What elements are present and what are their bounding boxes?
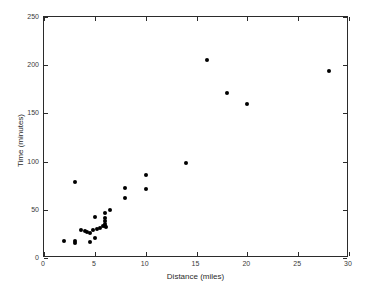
x-tick-label: 25 (293, 260, 301, 267)
x-axis-tick-top (247, 17, 248, 21)
x-axis-tick (298, 252, 299, 256)
data-point (103, 211, 107, 215)
data-point (327, 69, 331, 73)
y-axis-tick (44, 17, 48, 18)
data-point (205, 58, 209, 62)
data-point (225, 91, 229, 95)
y-tick-label: 50 (31, 205, 39, 212)
y-axis-tick (44, 210, 48, 211)
data-point (144, 187, 148, 191)
scatter-points-layer (44, 17, 347, 256)
y-axis-tick-right (343, 210, 347, 211)
data-point (123, 186, 127, 190)
data-point (245, 102, 249, 106)
figure-canvas: 051015202530050100150200250 Distance (mi… (0, 0, 378, 292)
x-axis-tick-top (298, 17, 299, 21)
data-point (93, 236, 97, 240)
x-tick-label: 15 (192, 260, 200, 267)
x-axis-tick (146, 252, 147, 256)
y-axis-label: Time (minutes) (16, 81, 25, 201)
y-axis-tick-right (343, 162, 347, 163)
x-axis-tick (197, 252, 198, 256)
y-axis-tick-right (343, 17, 347, 18)
y-axis-tick (44, 65, 48, 66)
x-axis-tick (44, 252, 45, 256)
data-point (88, 240, 92, 244)
x-axis-tick-top (197, 17, 198, 21)
y-tick-label: 100 (27, 157, 39, 164)
x-axis-tick-top (95, 17, 96, 21)
data-point (79, 228, 83, 232)
x-tick-label: 20 (242, 260, 250, 267)
plot-area (43, 16, 348, 257)
y-axis-tick (44, 258, 48, 259)
x-tick-label: 30 (344, 260, 352, 267)
data-point (73, 180, 77, 184)
y-tick-label: 0 (35, 254, 39, 261)
y-axis-tick (44, 162, 48, 163)
y-axis-tick-right (343, 65, 347, 66)
x-tick-label: 5 (92, 260, 96, 267)
y-axis-tick-right (343, 113, 347, 114)
data-point (123, 196, 127, 200)
x-axis-label: Distance (miles) (43, 272, 348, 281)
y-tick-label: 200 (27, 61, 39, 68)
data-point (108, 208, 112, 212)
y-axis-tick-right (343, 258, 347, 259)
x-tick-label: 0 (41, 260, 45, 267)
x-tick-label: 10 (141, 260, 149, 267)
data-point (144, 173, 148, 177)
y-tick-label: 150 (27, 109, 39, 116)
x-axis-tick (95, 252, 96, 256)
data-point (184, 161, 188, 165)
y-tick-label: 250 (27, 13, 39, 20)
data-point (73, 241, 77, 245)
x-axis-tick-top (349, 17, 350, 21)
data-point (93, 215, 97, 219)
data-point (104, 225, 108, 229)
x-axis-tick (349, 252, 350, 256)
x-axis-tick (247, 252, 248, 256)
y-axis-tick (44, 113, 48, 114)
x-axis-tick-top (146, 17, 147, 21)
data-point (62, 239, 66, 243)
